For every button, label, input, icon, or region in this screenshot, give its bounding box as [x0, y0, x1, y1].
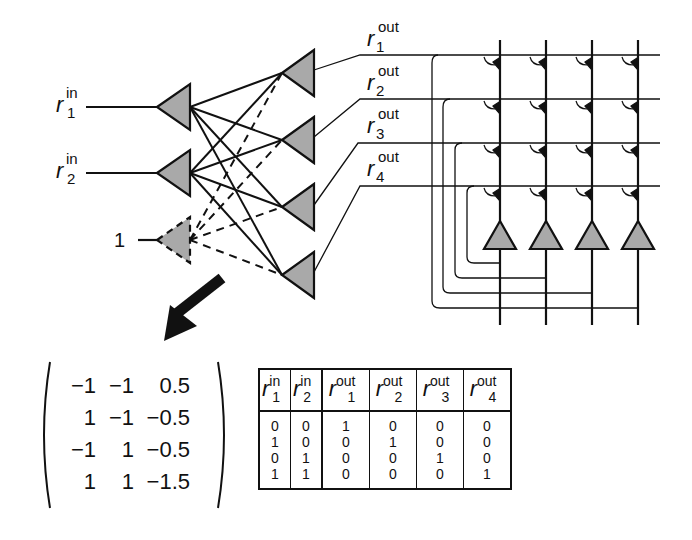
right-paren-icon — [214, 360, 230, 510]
crossbar-columns — [500, 40, 638, 325]
table-row: 1 0 0 1 0 0 — [259, 434, 511, 450]
output-neurons — [282, 50, 314, 298]
matrix-cell: −1 — [96, 370, 134, 402]
svg-text:r: r — [367, 26, 376, 51]
matrix-cell: 0.5 — [134, 370, 190, 402]
matrix-cell: −1.5 — [134, 466, 190, 498]
output-label-2: r out 2 — [367, 62, 400, 99]
svg-text:r: r — [367, 70, 376, 95]
left-paren-icon — [38, 360, 54, 510]
svg-text:2: 2 — [67, 170, 75, 187]
input-lines — [86, 107, 157, 240]
table-cell: 0 — [417, 434, 464, 450]
matrix-values: −1 −1 0.5 1 −1 −0.5 −1 1 −0.5 1 1 −1.5 — [58, 370, 190, 498]
svg-text:r: r — [56, 92, 65, 117]
truth-table-header: rin1 rin2 rout1 rout2 rout3 rout4 — [259, 369, 511, 411]
table-cell: 1 — [259, 434, 291, 450]
svg-text:4: 4 — [376, 168, 384, 185]
input-neuron-1 — [157, 84, 190, 130]
table-cell: 1 — [370, 434, 417, 450]
crossbar-neuron-1 — [484, 221, 516, 249]
bias-neuron — [157, 217, 190, 263]
svg-text:3: 3 — [376, 125, 384, 142]
table-cell: 1 — [291, 450, 323, 466]
table-cell: 1 — [464, 466, 512, 489]
input-label-1: r in 1 — [56, 84, 78, 121]
svg-text:r: r — [367, 113, 376, 138]
matrix-cell: 1 — [96, 434, 134, 466]
table-row: 0 0 1 0 0 0 — [259, 411, 511, 434]
header-r2-in: rin2 — [291, 369, 323, 411]
crossbar-neuron-3 — [576, 221, 608, 249]
svg-text:r: r — [367, 156, 376, 181]
table-cell: 1 — [417, 450, 464, 466]
table-cell: 0 — [464, 434, 512, 450]
matrix-cell: 1 — [58, 466, 96, 498]
svg-text:out: out — [378, 148, 400, 165]
table-cell: 0 — [464, 411, 512, 434]
table-cell: 1 — [322, 411, 370, 434]
table-cell: 0 — [417, 466, 464, 489]
header-r3-out: rout3 — [417, 369, 464, 411]
table-cell: 0 — [291, 411, 323, 434]
input-neuron-2 — [157, 150, 190, 196]
arrow-icon — [164, 278, 222, 341]
table-cell: 0 — [370, 466, 417, 489]
header-r2-out: rout2 — [370, 369, 417, 411]
weight-matrix: −1 −1 0.5 1 −1 −0.5 −1 1 −0.5 1 1 −1.5 — [38, 360, 208, 510]
output-label-4: r out 4 — [367, 148, 400, 185]
output-label-3: r out 3 — [367, 105, 400, 142]
table-cell: 0 — [322, 434, 370, 450]
synapse-row-3 — [484, 145, 637, 157]
table-cell: 1 — [259, 466, 291, 489]
input-label-2: r in 2 — [56, 150, 78, 187]
table-cell: 0 — [259, 411, 291, 434]
table-cell: 0 — [291, 434, 323, 450]
table-cell: 0 — [259, 450, 291, 466]
svg-text:1: 1 — [67, 104, 75, 121]
output-neuron-2 — [282, 117, 314, 163]
svg-text:1: 1 — [376, 38, 384, 55]
output-wires — [314, 55, 660, 272]
table-cell: 0 — [322, 466, 370, 489]
crossbar-neuron-2 — [530, 221, 562, 249]
matrix-cell: −1 — [58, 370, 96, 402]
matrix-cell: −1 — [58, 434, 96, 466]
crossbar-neurons — [484, 221, 654, 249]
feedback-loops — [432, 55, 638, 308]
matrix-cell: −1 — [96, 402, 134, 434]
synapse-grid — [484, 57, 637, 200]
matrix-cell: 1 — [58, 402, 96, 434]
table-row: 0 1 0 0 1 0 — [259, 450, 511, 466]
bias-connections — [190, 73, 282, 275]
matrix-cell: −0.5 — [134, 434, 190, 466]
matrix-cell: −0.5 — [134, 402, 190, 434]
svg-text:in: in — [66, 150, 78, 167]
table-cell: 0 — [370, 411, 417, 434]
crossbar-neuron-4 — [622, 221, 654, 249]
table-cell: 0 — [417, 411, 464, 434]
svg-text:2: 2 — [376, 82, 384, 99]
table-cell: 0 — [370, 450, 417, 466]
svg-text:out: out — [378, 62, 400, 79]
matrix-cell: 1 — [96, 466, 134, 498]
svg-text:out: out — [378, 18, 400, 35]
table-cell: 0 — [322, 450, 370, 466]
synapse-row-1 — [484, 57, 637, 69]
output-label-1: r out 1 — [367, 18, 400, 55]
synapse-row-4 — [484, 188, 637, 200]
svg-text:out: out — [378, 105, 400, 122]
output-neuron-4 — [282, 252, 314, 298]
table-cell: 1 — [291, 466, 323, 489]
table-cell: 0 — [464, 450, 512, 466]
output-neuron-1 — [282, 50, 314, 96]
truth-table: rin1 rin2 rout1 rout2 rout3 rout4 0 0 1 … — [258, 368, 512, 490]
synapse-row-2 — [484, 101, 637, 113]
svg-text:in: in — [66, 84, 78, 101]
header-r1-in: rin1 — [259, 369, 291, 411]
bias-label: 1 — [114, 229, 125, 251]
output-neuron-3 — [282, 184, 314, 230]
table-row: 1 1 0 0 0 1 — [259, 466, 511, 489]
header-r1-out: rout1 — [322, 369, 370, 411]
header-r4-out: rout4 — [464, 369, 512, 411]
